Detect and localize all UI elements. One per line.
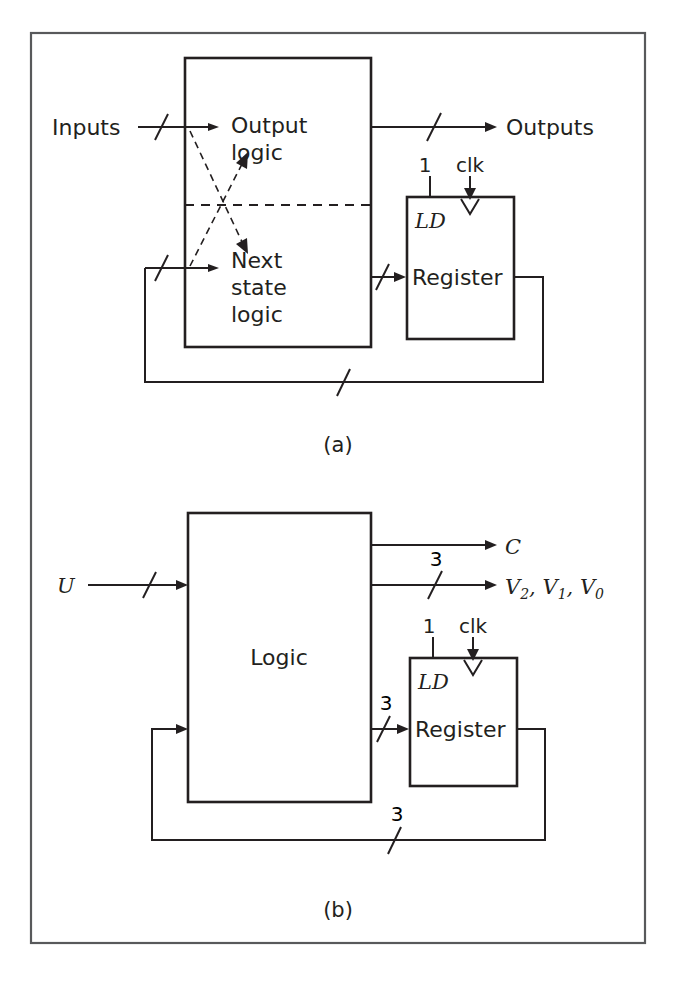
output-logic-label-line1: Output: [231, 113, 308, 138]
svg-text:V2, V1, V0: V2, V1, V0: [505, 575, 604, 602]
caption-a: (a): [323, 433, 352, 457]
output-v2-subscript: 2: [519, 586, 529, 602]
feedback-bus-width-label-b: 3: [391, 802, 404, 826]
output-v1-subscript: 1: [558, 586, 567, 602]
output-v-sep1: ,: [529, 575, 542, 599]
register-load-width-label-a: 1: [419, 153, 432, 177]
caption-b: (b): [323, 898, 353, 922]
block-diagram-svg: Output logic Next state logic Outputs In…: [0, 0, 676, 981]
next-state-logic-label-line1: Next: [231, 248, 283, 273]
output-c-arrowhead-icon: [485, 540, 497, 550]
register-clock-edge-notch-a: [461, 199, 479, 214]
figure-frame: [31, 33, 645, 943]
output-c-label: C: [505, 535, 521, 559]
feedback-arrowhead-icon-b: [176, 724, 188, 734]
output-v-sep2: ,: [567, 575, 580, 599]
outputs-arrowhead-icon: [485, 122, 497, 132]
figure-root: Output logic Next state logic Outputs In…: [0, 0, 676, 981]
logic-label-b: Logic: [250, 645, 308, 670]
outputs-label: Outputs: [506, 115, 594, 140]
output-v-label-group: V2, V1, V0: [505, 575, 604, 602]
register-load-width-label-b: 1: [423, 614, 436, 638]
inputs-arrowhead-icon: [208, 123, 219, 131]
output-bus-width-label: 3: [430, 547, 443, 571]
register-label-a: Register: [412, 265, 504, 290]
register-input-bus-width-label-b: 3: [380, 691, 393, 715]
register-load-label-a: LD: [414, 209, 446, 233]
register-feedback-path-b: [152, 729, 545, 840]
register-load-label-b: LD: [417, 670, 449, 694]
state-arrowhead-icon-a: [208, 264, 219, 272]
register-input-arrowhead-icon-a: [394, 272, 406, 282]
register-clock-edge-notch-b: [464, 660, 482, 675]
next-state-logic-label-line2: state: [231, 275, 287, 300]
register-clock-label-b: clk: [459, 614, 488, 638]
diagram-a-group: Output logic Next state logic Outputs In…: [52, 58, 594, 457]
register-input-arrowhead-icon-b: [397, 724, 409, 734]
output-logic-label-line2: logic: [231, 140, 283, 165]
inputs-label: Inputs: [52, 115, 120, 140]
output-v-arrowhead-icon: [485, 580, 497, 590]
output-v0-subscript: 0: [595, 586, 604, 602]
diagram-b-group: Logic U C 3 V2, V1, V0 LD Registe: [57, 513, 604, 922]
next-state-logic-label-line3: logic: [231, 302, 283, 327]
input-u-arrowhead-icon: [176, 580, 188, 590]
register-clock-label-a: clk: [456, 153, 485, 177]
input-u-label: U: [57, 574, 76, 598]
register-label-b: Register: [415, 717, 507, 742]
